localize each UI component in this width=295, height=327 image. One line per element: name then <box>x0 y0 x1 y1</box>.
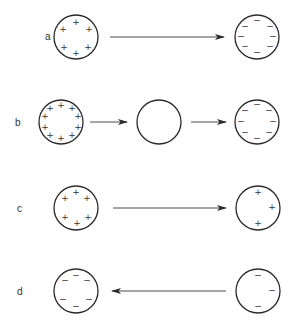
plus-charge-icon: + <box>268 202 276 212</box>
plus-charge-icon: + <box>61 212 69 222</box>
minus-charge-icon: − <box>241 105 249 115</box>
plus-charge-icon: + <box>74 111 82 121</box>
sphere-c-right: +++ <box>236 186 280 230</box>
minus-charge-icon: − <box>237 31 245 41</box>
minus-charge-icon: − <box>85 294 93 304</box>
plus-charge-icon: + <box>57 100 65 110</box>
sphere-outline <box>137 100 181 144</box>
plus-charge-icon: + <box>83 193 91 203</box>
row-label: d <box>17 286 23 297</box>
plus-charge-icon: + <box>68 130 76 140</box>
minus-charge-icon: − <box>83 275 91 285</box>
row-b: b++++++++++−−−−−−−− <box>15 99 279 144</box>
row-label: c <box>17 203 22 214</box>
minus-charge-icon: − <box>59 294 67 304</box>
minus-charge-icon: − <box>253 133 261 143</box>
diagram-rows: a++++++−−−−−−−−b++++++++++−−−−−−−−c+++++… <box>15 15 280 313</box>
plus-charge-icon: + <box>254 187 262 197</box>
plus-charge-icon: + <box>72 187 80 197</box>
minus-charge-icon: − <box>72 301 80 311</box>
plus-charge-icon: + <box>60 42 68 52</box>
plus-charge-icon: + <box>57 133 65 143</box>
sphere-d-left: −−−−−− <box>54 269 98 313</box>
minus-charge-icon: − <box>269 31 277 41</box>
minus-charge-icon: − <box>253 99 261 109</box>
plus-charge-icon: + <box>84 42 92 52</box>
minus-charge-icon: − <box>253 15 261 25</box>
minus-charge-icon: − <box>241 21 249 31</box>
minus-charge-icon: − <box>241 127 249 137</box>
row-label: b <box>15 117 21 128</box>
minus-charge-icon: − <box>266 41 274 51</box>
sphere-a-right: −−−−−−−− <box>235 15 279 59</box>
minus-charge-icon: − <box>269 116 277 126</box>
plus-charge-icon: + <box>61 193 69 203</box>
sphere-b-left: ++++++++++ <box>39 100 83 144</box>
row-label: a <box>45 31 51 42</box>
row-d: d−−−−−−−−− <box>17 269 280 313</box>
plus-charge-icon: + <box>41 111 49 121</box>
minus-charge-icon: − <box>61 275 69 285</box>
minus-charge-icon: − <box>237 116 245 126</box>
minus-charge-icon: − <box>265 127 273 137</box>
minus-charge-icon: − <box>254 270 262 280</box>
plus-charge-icon: + <box>254 218 262 228</box>
sphere-a-left: ++++++ <box>54 15 98 59</box>
plus-charge-icon: + <box>72 48 80 58</box>
minus-charge-icon: − <box>254 301 262 311</box>
minus-charge-icon: − <box>265 105 273 115</box>
minus-charge-icon: − <box>268 285 276 295</box>
plus-charge-icon: + <box>46 130 54 140</box>
plus-charge-icon: + <box>84 212 92 222</box>
plus-charge-icon: + <box>85 24 93 34</box>
charge-diagram: a++++++−−−−−−−−b++++++++++−−−−−−−−c+++++… <box>0 0 295 327</box>
plus-charge-icon: + <box>72 17 80 27</box>
sphere-b-middle <box>137 100 181 144</box>
sphere-d-right: −−− <box>236 269 280 313</box>
plus-charge-icon: + <box>73 218 81 228</box>
minus-charge-icon: − <box>266 21 274 31</box>
sphere-c-left: ++++++ <box>54 186 98 230</box>
row-c: c+++++++++ <box>17 186 280 230</box>
sphere-b-right: −−−−−−−− <box>235 99 279 144</box>
minus-charge-icon: − <box>241 41 249 51</box>
minus-charge-icon: − <box>253 47 261 57</box>
minus-charge-icon: − <box>72 270 80 280</box>
plus-charge-icon: + <box>59 24 67 34</box>
row-a: a++++++−−−−−−−− <box>45 15 279 59</box>
